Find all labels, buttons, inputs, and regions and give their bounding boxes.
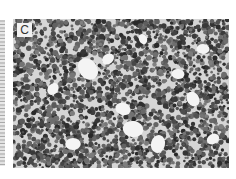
adjacent-panel-edge xyxy=(0,20,5,166)
tissue-texture xyxy=(13,19,229,168)
micrograph-panel: C xyxy=(13,19,229,168)
panel-label: C xyxy=(17,23,32,37)
